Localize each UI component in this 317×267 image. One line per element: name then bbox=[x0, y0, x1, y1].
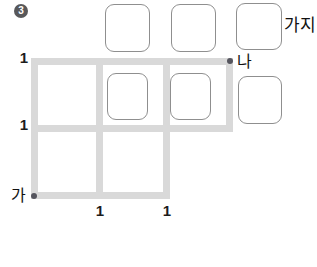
grid-line-vertical-left bbox=[31, 58, 38, 199]
worksheet-diagram: 3 1 1 1 1 가 나 가지 bbox=[0, 0, 317, 267]
answer-box-top-3[interactable] bbox=[236, 3, 282, 50]
problem-number: 3 bbox=[18, 6, 24, 16]
grid-line-horizontal-middle bbox=[31, 125, 233, 132]
answer-unit-label: 가지 bbox=[284, 17, 316, 36]
answer-box-top-2[interactable] bbox=[171, 4, 216, 52]
unit-label-left-middle: 1 bbox=[12, 117, 28, 133]
problem-number-badge: 3 bbox=[14, 4, 28, 18]
answer-box-top-1[interactable] bbox=[105, 4, 150, 52]
unit-label-bottom-second: 1 bbox=[159, 203, 175, 219]
grid-line-vertical-second bbox=[96, 58, 103, 199]
answer-box-right[interactable] bbox=[238, 76, 282, 124]
answer-box-grid-cell-2[interactable] bbox=[107, 73, 148, 120]
start-point-dot bbox=[31, 193, 37, 199]
start-point-label: 가 bbox=[11, 187, 26, 205]
end-point-dot bbox=[227, 58, 233, 64]
grid-line-horizontal-top bbox=[31, 58, 233, 65]
grid-line-vertical-right bbox=[226, 58, 233, 132]
unit-label-left-top: 1 bbox=[12, 50, 28, 66]
unit-label-bottom-first: 1 bbox=[92, 203, 108, 219]
end-point-label: 나 bbox=[237, 53, 252, 71]
answer-box-grid-cell-3[interactable] bbox=[170, 73, 211, 120]
grid-line-vertical-third bbox=[163, 58, 170, 199]
